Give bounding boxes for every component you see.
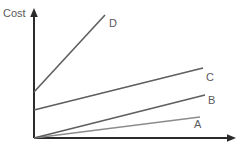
series-line-b: [34, 95, 205, 138]
series-label-b: B: [208, 94, 215, 106]
chart-canvas: Cost D C B A: [0, 0, 239, 147]
series-label-a: A: [194, 118, 202, 130]
series-label-c: C: [206, 71, 214, 83]
series-line-d: [34, 15, 105, 92]
series-line-c: [34, 68, 203, 110]
x-axis-arrow-icon: [227, 134, 236, 142]
cost-line-chart: Cost D C B A: [0, 0, 239, 147]
y-axis-title: Cost: [3, 7, 26, 19]
series-labels-group: D C B A: [109, 17, 215, 130]
series-label-d: D: [109, 17, 117, 29]
chart-series-group: [34, 15, 205, 138]
y-axis-arrow-icon: [30, 8, 38, 17]
series-line-a: [34, 117, 200, 138]
